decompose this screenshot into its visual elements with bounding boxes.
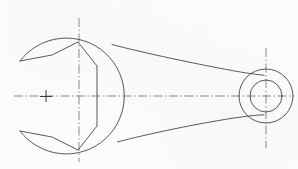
centerlines-group: [14, 18, 292, 162]
handle-bottom-edge: [118, 115, 265, 142]
handle-top-edge: [112, 45, 264, 76]
handle-group: [112, 45, 264, 143]
reference-cross-mark: [40, 90, 52, 102]
wrench-drawing-svg: .outline{ fill:none; stroke:#3c3c3c; str…: [0, 0, 298, 169]
wrench-drawing-canvas: .outline{ fill:none; stroke:#3c3c3c; str…: [0, 0, 298, 169]
